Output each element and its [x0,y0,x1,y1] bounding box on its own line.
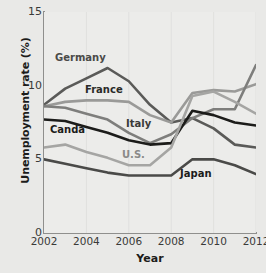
y-tick-15: 15 [2,5,42,18]
x-tick-2002: 2002 [24,235,64,247]
series-label-canda: Canda [50,124,85,135]
x-tick-2012: 2012 [236,235,266,247]
series-line-germany [44,68,256,148]
series-label-france: France [85,84,123,95]
x-tick-2010: 2010 [194,235,234,247]
series-label-japan: Japan [180,168,212,179]
series-label-germany: Germany [55,52,106,63]
series-label-us: U.S. [122,149,145,160]
series-line-japan [44,159,256,175]
y-tick-5: 5 [2,152,42,165]
x-tick-2004: 2004 [66,235,106,247]
x-tick-2006: 2006 [109,235,149,247]
y-tick-10: 10 [2,79,42,92]
series-label-italy: Italy [126,118,151,129]
unemployment-rate-line-chart: Unemployment rate (%) 051015 20022004200… [0,0,266,273]
x-tick-2008: 2008 [151,235,191,247]
x-axis-title: Year [44,252,256,265]
y-axis-title: Unemployment rate (%) [19,31,32,191]
